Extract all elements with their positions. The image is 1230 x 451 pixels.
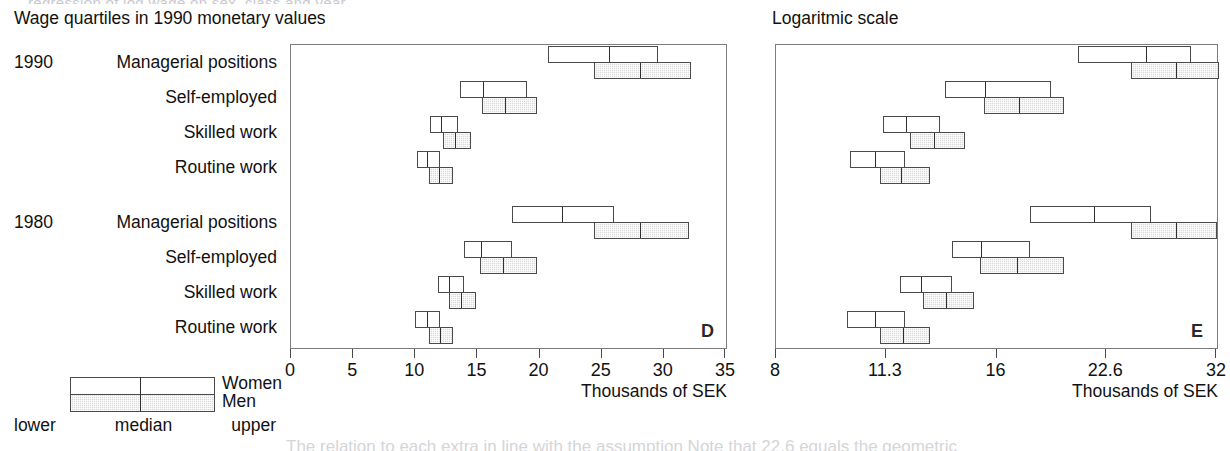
women-quartile-bar [417,151,441,168]
quartile-bar-group [291,241,726,276]
women-quartile-bar [1030,206,1151,223]
row-category-label: Self-employed [165,87,277,108]
women-quartile-bar [847,311,905,328]
median-line [439,168,440,183]
men-quartile-bar [984,97,1064,114]
median-line [449,277,450,292]
quartile-bar-group [776,116,1217,151]
men-quartile-bar [880,167,930,184]
left-plot-area: D [290,44,727,349]
legend-part-lower: lower [14,415,56,436]
row-category-label: Self-employed [165,247,277,268]
axis-tick [996,349,997,358]
median-line [1146,47,1147,62]
quartile-bar-group [776,151,1217,186]
women-quartile-bar [900,276,952,293]
legend-label-men: Men [222,391,256,412]
women-quartile-bar [952,241,1031,258]
median-line [901,168,902,183]
women-quartile-bar [883,116,940,133]
axis-tick-label: 10 [404,360,424,381]
axis-tick-label: 22.6 [1088,360,1123,381]
axis-tick-label: 5 [347,360,357,381]
women-quartile-bar [438,276,464,293]
women-quartile-bar [460,81,527,98]
median-line [903,328,904,343]
median-line [985,82,986,97]
men-quartile-bar [482,97,537,114]
median-line [875,312,876,327]
women-quartile-bar [548,46,657,63]
row-label: Self-employed [0,80,284,115]
axis-tick-label: 15 [466,360,486,381]
legend: Women Men lower median upper [70,377,280,447]
row-label: Routine work [0,150,284,185]
median-line [640,223,641,238]
cut-off-top-text: regression of log wage on sex, class and… [0,0,1230,4]
legend-part-median: median [115,415,172,436]
axis-tick-label: 11.3 [868,360,902,381]
axis-tick [1105,349,1106,358]
women-quartile-bar [1078,46,1191,63]
median-line [503,258,504,273]
women-quartile-bar [464,241,512,258]
row-label: Skilled work [0,275,284,310]
women-quartile-bar [850,151,905,168]
quartile-bar-group [291,116,726,151]
axis-tick-label: 20 [529,360,549,381]
axis-tick-label: 25 [591,360,611,381]
legend-part-upper: upper [231,415,276,436]
median-line [906,117,907,132]
left-panel-title: Wage quartiles in 1990 monetary values [14,8,326,29]
median-line [1094,207,1095,222]
quartile-bar-group [776,46,1217,81]
right-x-axis-title: Thousands of SEK [1072,381,1218,402]
axis-tick [724,349,725,358]
quartile-bar-group [776,241,1217,276]
median-line [921,277,922,292]
men-quartile-bar [443,132,472,149]
legend-women-swatch [70,377,215,395]
men-quartile-bar [880,327,930,344]
row-label: Self-employed [0,240,284,275]
quartile-bar-group [291,311,726,346]
quartile-bar-group [291,151,726,186]
median-line [981,242,982,257]
row-category-label: Routine work [175,317,277,338]
quartile-bar-group [291,81,726,116]
median-line [427,312,428,327]
men-quartile-bar [429,327,453,344]
right-plot-area: E [775,44,1218,349]
right-panel-title: Logaritmic scale [772,8,898,29]
row-label: 1980Managerial positions [0,205,284,240]
row-year-label: 1990 [14,52,53,73]
row-category-label: Managerial positions [116,212,277,233]
men-quartile-bar [449,292,476,309]
axis-tick [775,349,776,358]
axis-tick-label: 8 [770,360,780,381]
quartile-bar-group [291,276,726,311]
quartile-bar-group [776,206,1217,241]
axis-tick [601,349,602,358]
median-line [440,328,441,343]
right-x-axis: Thousands of SEK 811.31622.632 [775,349,1218,391]
axis-tick-label: 0 [285,360,295,381]
men-quartile-bar [1131,62,1219,79]
row-category-label: Skilled work [184,282,277,303]
cut-off-bottom-caption: The relation to each extra in line with … [286,437,1225,451]
women-quartile-bar [415,311,440,328]
median-line [505,98,506,113]
quartile-bar-group [776,81,1217,116]
men-quartile-bar [910,132,965,149]
median-line [875,152,876,167]
median-line [461,293,462,308]
median-line [1176,223,1177,238]
men-quartile-bar [1131,222,1217,239]
axis-tick-label: 32 [1206,360,1226,381]
median-line [455,133,456,148]
women-quartile-bar [430,116,457,133]
legend-quartile-labels: lower median upper [14,415,276,436]
quartile-bar-group [291,46,726,81]
median-line [481,242,482,257]
row-category-label: Skilled work [184,122,277,143]
